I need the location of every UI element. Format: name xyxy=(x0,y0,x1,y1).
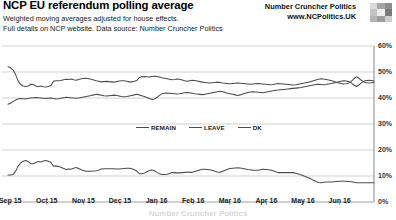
brand-name: Number Cruncher Politics xyxy=(265,2,356,12)
y-axis-tick-label: 20% xyxy=(378,146,392,153)
y-axis-tick-label: 30% xyxy=(378,120,392,127)
y-axis-tick-label: 0% xyxy=(378,198,388,205)
page-title: NCP EU referendum polling average xyxy=(3,0,193,11)
x-axis-tick-label: Jan 16 xyxy=(137,197,177,204)
legend-item-leave[interactable]: LEAVE xyxy=(189,124,225,131)
legend-label: LEAVE xyxy=(204,124,225,131)
legend-swatch-icon xyxy=(238,127,251,129)
series-line-dk xyxy=(8,160,374,182)
x-axis-tick-label: Mar 16 xyxy=(210,197,250,204)
legend-item-dk[interactable]: DK xyxy=(238,124,262,131)
logo-letter: x xyxy=(382,9,385,15)
brand-url: www.NCPolitics.UK xyxy=(265,12,356,22)
y-axis-tick-label: 40% xyxy=(378,94,392,101)
x-axis-tick-label: May 16 xyxy=(283,197,323,204)
x-axis-tick-label: Feb 16 xyxy=(173,197,213,204)
ncp-logo-icon xyxy=(370,3,392,22)
legend-label: DK xyxy=(253,124,262,131)
subtitle-line-1: Weighted moving averages adjusted for ho… xyxy=(3,14,179,23)
legend-item-remain[interactable]: REMAIN xyxy=(136,124,176,131)
brand-block: Number Cruncher Politics www.NCPolitics.… xyxy=(265,2,356,21)
x-axis-tick-label: Jun 16 xyxy=(320,197,360,204)
chart-header: NCP EU referendum polling average Weight… xyxy=(0,0,396,40)
x-axis-tick-label: Oct 15 xyxy=(27,197,67,204)
watermark: Number Cruncher Politics xyxy=(0,209,396,220)
chart-root: NCP EU referendum polling average Weight… xyxy=(0,0,396,220)
legend-swatch-icon xyxy=(189,127,202,129)
x-axis-tick-label: Dec 15 xyxy=(100,197,140,204)
legend-swatch-icon xyxy=(136,127,149,129)
x-axis-tick-label: Sep 15 xyxy=(0,197,30,204)
subtitle-line-2: Full details on NCP website. Data source… xyxy=(3,24,223,33)
x-axis-tick-label: Apr 16 xyxy=(246,197,286,204)
x-axis-tick-label: Nov 15 xyxy=(63,197,103,204)
legend-label: REMAIN xyxy=(151,124,176,131)
y-axis-tick-label: 50% xyxy=(378,68,392,75)
chart-legend: REMAINLEAVEDK xyxy=(136,122,262,133)
y-axis-tick-label: 10% xyxy=(378,172,392,179)
y-axis-tick-label: 60% xyxy=(378,42,392,49)
series-line-leave xyxy=(8,80,374,104)
